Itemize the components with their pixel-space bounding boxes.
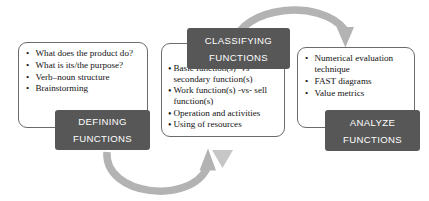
bullet-icon: • — [26, 48, 29, 59]
diagram-canvas: • What does the product do? • What is it… — [0, 0, 429, 201]
list-item-label: What does the product do? — [36, 48, 133, 58]
list-item: • What is its/the purpose? — [26, 60, 142, 71]
stage-label-analyze[interactable]: ANALYZE FUNCTIONS — [325, 110, 420, 151]
bottom-arc-arrow — [107, 149, 216, 192]
list-item-label: What is its/the purpose? — [36, 60, 124, 70]
list-item-label: Using of resources — [174, 119, 242, 129]
stage-label-line-2: FUNCTIONS — [73, 130, 132, 147]
bullet-icon: • — [305, 76, 308, 87]
list-item: • Work function(s) -vs- sell function(s) — [168, 85, 279, 107]
stage-label-line-2: FUNCTIONS — [343, 131, 402, 148]
list-item-label: Brainstorming — [36, 83, 89, 93]
list-item-label: FAST diagrams — [315, 76, 372, 86]
bullet-icon: • — [305, 88, 308, 99]
list-item-label: Numerical evaluation technique — [315, 53, 394, 74]
stage-label-line-1: ANALYZE — [350, 114, 395, 131]
list-item-label: Value metrics — [315, 88, 365, 98]
bullet-icon: • — [26, 83, 29, 94]
bullet-icon: • — [26, 60, 29, 71]
list-item: • What does the product do? — [26, 48, 142, 59]
analyze-bullet-list: • Numerical evaluation technique • FAST … — [305, 53, 410, 99]
list-item-label: Verb–noun structure — [36, 72, 110, 82]
bullet-icon: • — [168, 85, 172, 96]
list-item: • FAST diagrams — [305, 76, 410, 87]
bullet-icon: • — [168, 63, 172, 74]
list-item: • Operation and activities — [168, 108, 279, 119]
list-item: • Brainstorming — [26, 83, 142, 94]
stage-label-defining[interactable]: DEFINING FUNCTIONS — [55, 110, 150, 150]
bullet-icon: • — [26, 72, 29, 83]
list-item: • Numerical evaluation technique — [305, 53, 410, 75]
classifying-bullet-list: • Basic function(s) -vs- secondary funct… — [168, 63, 279, 130]
list-item: • Using of resources — [168, 119, 279, 130]
list-item: • Value metrics — [305, 88, 410, 99]
defining-bullet-list: • What does the product do? • What is it… — [26, 48, 142, 95]
stage-label-classifying[interactable]: CLASSIFYING FUNCTIONS — [187, 28, 290, 69]
stage-label-line-1: DEFINING — [78, 113, 127, 130]
stage-label-line-1: CLASSIFYING — [205, 32, 272, 49]
stage-label-line-2: FUNCTIONS — [209, 49, 268, 66]
bullet-icon: • — [168, 108, 172, 119]
list-item-label: Work function(s) -vs- sell function(s) — [174, 85, 267, 106]
bullet-icon: • — [168, 119, 172, 130]
small-down-arrow — [212, 150, 233, 168]
list-item: • Verb–noun structure — [26, 72, 142, 83]
list-item-label: Operation and activities — [174, 108, 261, 118]
bullet-icon: • — [305, 53, 308, 64]
